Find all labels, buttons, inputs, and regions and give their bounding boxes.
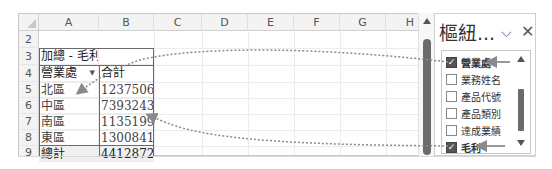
gridline xyxy=(248,31,249,155)
cell-b4-column-label[interactable]: 合計 xyxy=(99,65,154,82)
column-header-c[interactable]: C xyxy=(154,14,202,31)
cell-a9-grand-total-label[interactable]: 總計 xyxy=(39,146,99,162)
cell-b9-grand-total[interactable]: 441287208 xyxy=(99,146,154,162)
gridline xyxy=(340,31,341,155)
column-header-d[interactable]: D xyxy=(202,14,248,31)
row-header-3[interactable]: 3 xyxy=(19,48,39,65)
close-icon[interactable]: ✕ xyxy=(521,22,534,41)
sheet-vertical-scrollbar[interactable] xyxy=(418,13,434,156)
field-item-product-code[interactable]: 產品代號 xyxy=(446,88,501,104)
checkbox-checked-icon[interactable]: ✓ xyxy=(446,142,457,153)
field-list-scroll-down-icon[interactable] xyxy=(517,140,525,146)
row-header-7[interactable]: 7 xyxy=(19,114,39,130)
checkbox-unchecked-icon[interactable] xyxy=(446,125,457,136)
checkbox-unchecked-icon[interactable] xyxy=(446,74,457,85)
gridline xyxy=(154,31,155,155)
select-all-corner[interactable] xyxy=(19,14,39,31)
field-label: 產品代號 xyxy=(461,89,501,104)
column-header-b[interactable]: B xyxy=(99,14,154,31)
field-label: 產品類別 xyxy=(461,106,501,121)
spreadsheet-grid[interactable]: A B C D E F G H 2 3 4 5 6 7 8 9 加總 - 毛利 … xyxy=(18,13,418,156)
cell-a5[interactable]: 北區 xyxy=(39,82,99,98)
checkbox-unchecked-icon[interactable] xyxy=(446,91,457,102)
row-header-5[interactable]: 5 xyxy=(19,82,39,98)
pivot-fields-panel: 樞紐... ⌵ ✕ ✓ 營業處 業務姓名 產品代號 產品類別 達成業績 ✓ 毛利 xyxy=(434,13,536,156)
cell-a6[interactable]: 中區 xyxy=(39,98,99,114)
filter-dropdown-icon[interactable]: ▼ xyxy=(90,65,95,82)
field-item-gross-profit[interactable]: ✓ 毛利 xyxy=(446,139,481,155)
field-item-salesperson[interactable]: 業務姓名 xyxy=(446,71,501,87)
cell-a3-pivot-value-label[interactable]: 加總 - 毛利 xyxy=(39,48,99,65)
field-label: 達成業績 xyxy=(461,123,501,138)
gridline xyxy=(294,31,295,155)
column-header-g[interactable]: G xyxy=(340,14,386,31)
cell-b3[interactable] xyxy=(99,48,154,65)
gridline xyxy=(202,31,203,155)
cell-b6[interactable]: 73932430 xyxy=(99,98,154,114)
field-label: 營業處 xyxy=(461,55,491,70)
scroll-thumb[interactable] xyxy=(423,39,431,155)
field-item-region[interactable]: ✓ 營業處 xyxy=(446,54,491,70)
field-item-product-category[interactable]: 產品類別 xyxy=(446,105,501,121)
column-header-a[interactable]: A xyxy=(39,14,99,31)
field-list-scroll-up-icon[interactable] xyxy=(517,56,525,62)
cell-b5[interactable]: 123750648 xyxy=(99,82,154,98)
row-header-2[interactable]: 2 xyxy=(19,31,39,48)
checkbox-checked-icon[interactable]: ✓ xyxy=(446,57,457,68)
column-header-e[interactable]: E xyxy=(248,14,294,31)
bottom-border xyxy=(18,156,536,157)
column-header-h[interactable]: H xyxy=(386,14,419,31)
chevron-down-icon[interactable]: ⌵ xyxy=(501,24,512,41)
cell-a7[interactable]: 南區 xyxy=(39,114,99,130)
gridline xyxy=(386,31,387,155)
field-label: 毛利 xyxy=(461,140,481,155)
scroll-up-arrow-icon[interactable] xyxy=(423,18,431,24)
cell-b8[interactable]: 130084170 xyxy=(99,130,154,146)
pivot-field-list[interactable]: ✓ 營業處 業務姓名 產品代號 產品類別 達成業績 ✓ 毛利 xyxy=(441,50,531,154)
panel-title: 樞紐... xyxy=(439,18,495,45)
field-item-achieved-sales[interactable]: 達成業績 xyxy=(446,122,501,138)
cell-b7[interactable]: 113519960 xyxy=(99,114,154,130)
cell-a8[interactable]: 東區 xyxy=(39,130,99,146)
row-header-4[interactable]: 4 xyxy=(19,65,39,82)
field-label: 業務姓名 xyxy=(461,72,501,87)
checkbox-unchecked-icon[interactable] xyxy=(446,108,457,119)
row-header-6[interactable]: 6 xyxy=(19,98,39,114)
row-label-text: 營業處 xyxy=(41,66,77,80)
column-header-f[interactable]: F xyxy=(294,14,340,31)
field-list-scroll-thumb[interactable] xyxy=(518,89,524,131)
row-header-8[interactable]: 8 xyxy=(19,130,39,146)
cell-a4-row-label-header[interactable]: 營業處 ▼ xyxy=(39,65,99,82)
